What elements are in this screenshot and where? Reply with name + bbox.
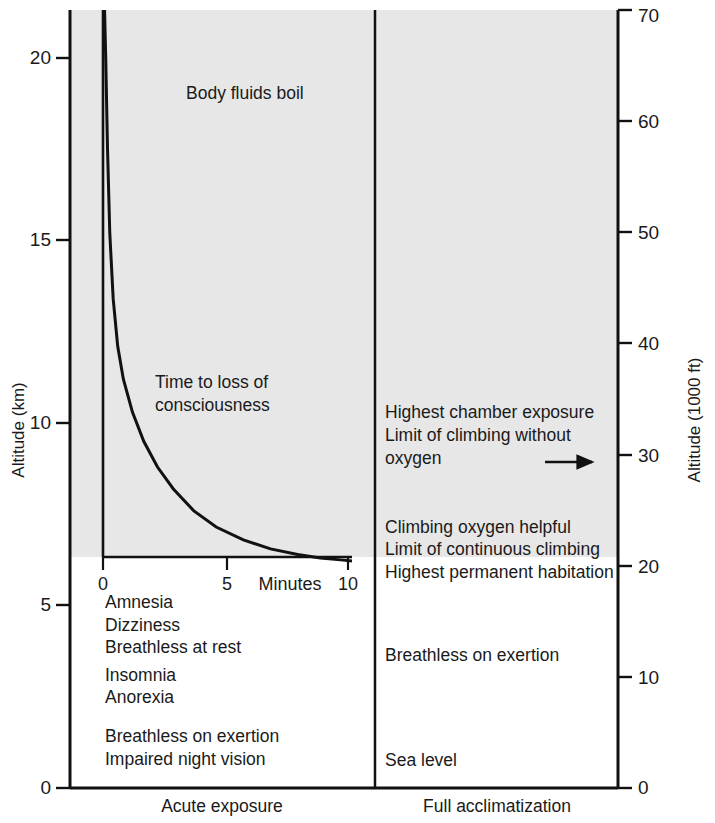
right-tick-20: 20: [638, 556, 659, 577]
left-axis-ticks: [56, 58, 70, 788]
annotation-breathless-on-exertion-acute: Breathless on exertion: [105, 726, 279, 746]
right-tick-60: 60: [638, 111, 659, 132]
right-tick-0: 0: [638, 777, 649, 798]
annotation-amnesia: Amnesia: [105, 592, 173, 612]
annotation-anorexia: Anorexia: [105, 687, 174, 707]
right-axis-tick-labels: 0 10 20 30 40 50 60 70: [638, 5, 659, 798]
right-tick-10: 10: [638, 667, 659, 688]
inset-x-axis-title: Minutes: [258, 574, 321, 594]
inset-x-tick-labels: 0 5 10 Minutes: [98, 574, 358, 594]
annotation-highest-chamber-exposure: Highest chamber exposure: [385, 402, 594, 422]
right-tick-40: 40: [638, 333, 659, 354]
annotation-limit-of-continuous-climbing: Limit of continuous climbing: [385, 539, 600, 559]
left-tick-20: 20: [30, 47, 51, 68]
left-axis-tick-labels: 0 5 10 15 20: [30, 47, 51, 798]
inset-tick-0: 0: [98, 574, 108, 594]
panel-caption-acute: Acute exposure: [161, 796, 283, 816]
curve-label-line2: consciousness: [155, 395, 270, 415]
left-tick-5: 5: [40, 594, 51, 615]
annotation-breathless-on-exertion-acclimatized: Breathless on exertion: [385, 645, 559, 665]
annotation-limit-of-climbing-without: Limit of climbing without: [385, 425, 571, 445]
inset-x-ticks: [103, 557, 348, 570]
annotation-breathless-at-rest: Breathless at rest: [105, 637, 241, 657]
annotation-oxygen: oxygen: [385, 448, 441, 468]
right-axis-ticks: [618, 10, 632, 788]
annotation-climbing-oxygen-helpful: Climbing oxygen helpful: [385, 517, 571, 537]
left-tick-0: 0: [40, 777, 51, 798]
annotation-dizziness: Dizziness: [105, 615, 180, 635]
annotation-insomnia: Insomnia: [105, 665, 176, 685]
inset-tick-5: 5: [222, 574, 232, 594]
annotation-impaired-night-vision: Impaired night vision: [105, 749, 266, 769]
annotation-sea-level: Sea level: [385, 750, 457, 770]
right-tick-50: 50: [638, 222, 659, 243]
left-axis-title: Altitude (km): [9, 382, 28, 477]
curve-label-line1: Time to loss of: [155, 372, 268, 392]
annotation-highest-permanent-habitation: Highest permanent habitation: [385, 562, 614, 582]
left-tick-10: 10: [30, 412, 51, 433]
left-tick-15: 15: [30, 229, 51, 250]
shaded-region: [70, 10, 618, 557]
chart-canvas: 0 5 10 15 20 0 10 20 30 40 50 60 70: [0, 0, 715, 823]
altitude-physiology-figure: 0 5 10 15 20 0 10 20 30 40 50 60 70: [0, 0, 715, 823]
right-axis-title: Altitude (1000 ft): [685, 358, 704, 483]
annotation-body-fluids-boil: Body fluids boil: [186, 83, 304, 103]
inset-tick-10: 10: [338, 574, 358, 594]
panel-caption-acclimatized: Full acclimatization: [423, 796, 571, 816]
right-tick-70: 70: [638, 5, 659, 26]
right-tick-30: 30: [638, 445, 659, 466]
